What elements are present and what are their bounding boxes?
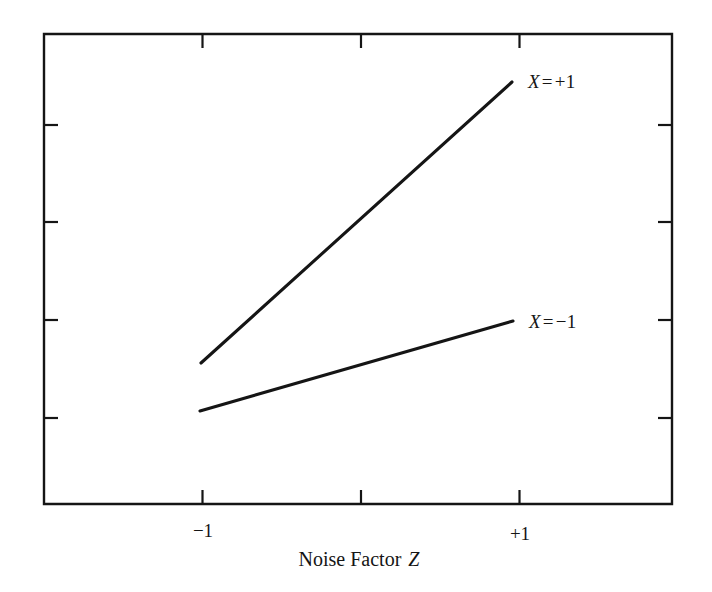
y-axis-ticks <box>44 125 58 418</box>
right-axis-ticks <box>658 125 672 418</box>
series-label-x-minus-variable: X <box>529 311 542 332</box>
axes-frame-rect <box>44 34 672 504</box>
series-label-x-plus-variable: X <box>528 71 541 92</box>
axes-frame <box>44 34 672 504</box>
x-axis-ticks <box>203 490 520 504</box>
series-label-x-plus-1: X=+1 <box>528 72 575 91</box>
top-axis-ticks <box>203 34 520 48</box>
series-label-x-plus-value: +1 <box>555 71 576 92</box>
series-label-x-minus-equals: = <box>542 311 556 332</box>
x-axis-title: Noise Factor Z <box>299 549 420 569</box>
x-tick-label-pos1: +1 <box>510 524 530 543</box>
series-label-x-minus-1: X=−1 <box>529 312 576 331</box>
plot-canvas <box>0 0 712 592</box>
x-axis-title-text: Noise Factor <box>299 548 407 570</box>
series-line-x-plus-1 <box>201 82 512 363</box>
x-axis-title-variable: Z <box>406 548 419 570</box>
series-line-x-minus-1 <box>200 321 513 411</box>
x-tick-label-neg1: −1 <box>193 521 213 540</box>
data-series-group <box>200 82 513 411</box>
interaction-plot-figure: X=+1 X=−1 −1 +1 Noise Factor Z <box>0 0 712 592</box>
series-label-x-minus-value: −1 <box>556 311 577 332</box>
series-label-x-plus-equals: = <box>541 71 555 92</box>
